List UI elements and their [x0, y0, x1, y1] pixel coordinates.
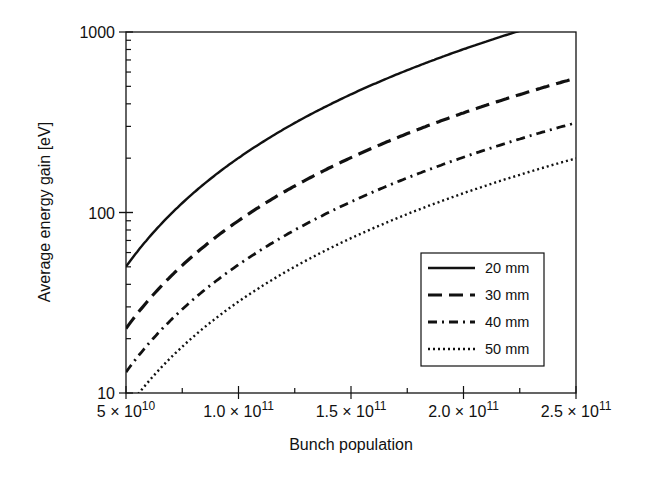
- y-axis-title: Average energy gain [eV]: [36, 122, 53, 302]
- x-axis-ticks: 5 × 10101.0 × 10111.5 × 10112.0 × 10112.…: [97, 386, 612, 420]
- x-tick-label: 1.0 × 1011: [203, 399, 274, 420]
- y-tick-label: 100: [88, 205, 115, 222]
- x-axis-title: Bunch population: [289, 436, 413, 453]
- legend-label: 30 mm: [485, 287, 529, 303]
- curve-20-mm: [126, 14, 576, 266]
- y-axis-ticks: 101001000: [79, 24, 133, 402]
- x-tick-label: 2.5 × 1011: [541, 399, 612, 420]
- legend-label: 50 mm: [485, 341, 529, 357]
- legend-label: 20 mm: [485, 260, 529, 276]
- legend-label: 40 mm: [485, 314, 529, 330]
- x-tick-label: 1.5 × 1011: [316, 399, 387, 420]
- x-tick-label: 2.0 × 1011: [428, 399, 499, 420]
- y-tick-label: 1000: [79, 24, 115, 41]
- y-tick-label: 10: [97, 385, 115, 402]
- legend: 20 mm30 mm40 mm50 mm: [421, 253, 544, 366]
- x-tick-label: 5 × 1010: [97, 399, 156, 420]
- chart: 101001000 5 × 10101.0 × 10111.5 × 10112.…: [0, 0, 652, 479]
